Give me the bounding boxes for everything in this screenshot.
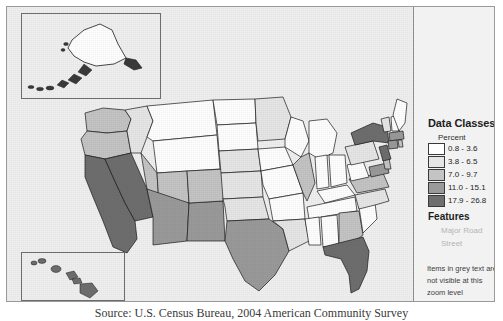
- state-washington[interactable]: [85, 108, 131, 133]
- state-nebraska[interactable]: [219, 149, 261, 173]
- state-montana[interactable]: [147, 100, 217, 141]
- map-frame: Data Classes Percent 0.8 - 3.6 3.8 - 6.5…: [6, 6, 495, 302]
- state-rhode-island[interactable]: [398, 140, 403, 147]
- legend-panel: Data Classes Percent 0.8 - 3.6 3.8 - 6.5…: [421, 7, 495, 301]
- source-caption: Source: U.S. Census Bureau, 2004 America…: [0, 306, 503, 321]
- legend-class-label-0: 0.8 - 3.6: [448, 144, 477, 153]
- feature-item-street[interactable]: Street: [441, 239, 462, 248]
- map-canvas[interactable]: [7, 7, 413, 301]
- state-oklahoma[interactable]: [223, 197, 269, 221]
- state-north-dakota[interactable]: [213, 99, 256, 125]
- state-michigan[interactable]: [309, 119, 337, 159]
- state-texas[interactable]: [225, 219, 289, 291]
- legend-swatch-3: [428, 182, 445, 194]
- legend-swatch-1: [428, 156, 445, 168]
- feature-item-major-road[interactable]: Major Road: [441, 226, 482, 235]
- state-kansas[interactable]: [221, 171, 263, 199]
- legend-swatch-2: [428, 169, 445, 181]
- features-title: Features: [428, 211, 470, 222]
- map-viewer: Data Classes Percent 0.8 - 3.6 3.8 - 6.5…: [0, 0, 503, 321]
- legend-class-label-3: 11.0 - 15.1: [448, 183, 486, 192]
- legend-class-label-4: 17.9 - 26.8: [448, 196, 486, 205]
- inset-hawaii[interactable]: [21, 252, 125, 301]
- legend-swatch-0: [428, 143, 445, 155]
- legend-swatch-4: [428, 195, 445, 207]
- legend-divider: [413, 7, 414, 301]
- legend-title: Data Classes: [428, 117, 495, 129]
- alaska-shape-layer: [22, 14, 160, 98]
- alaska-panhandle[interactable]: [124, 58, 142, 70]
- state-new-mexico[interactable]: [187, 201, 225, 241]
- inset-alaska[interactable]: [21, 13, 161, 99]
- state-wyoming[interactable]: [153, 135, 220, 173]
- state-minnesota[interactable]: [255, 97, 291, 141]
- state-massachusetts[interactable]: [389, 131, 404, 141]
- legend-class-label-2: 7.0 - 9.7: [448, 170, 477, 179]
- state-colorado[interactable]: [187, 169, 225, 203]
- legend-class-label-1: 3.8 - 6.5: [448, 157, 477, 166]
- legend-units-label: Percent: [438, 133, 466, 142]
- state-south-dakota[interactable]: [217, 123, 258, 151]
- state-connecticut[interactable]: [388, 140, 398, 149]
- zoom-level-note: Items in grey text are not visible at th…: [427, 263, 495, 299]
- state-florida[interactable]: [323, 237, 369, 293]
- state-indiana[interactable]: [315, 155, 329, 189]
- hawaii-shape-layer: [22, 253, 124, 300]
- state-hawaii[interactable]: [31, 259, 98, 298]
- state-alaska[interactable]: [68, 24, 126, 66]
- state-ohio[interactable]: [329, 155, 347, 187]
- state-alabama[interactable]: [321, 215, 339, 247]
- state-pennsylvania[interactable]: [345, 141, 379, 165]
